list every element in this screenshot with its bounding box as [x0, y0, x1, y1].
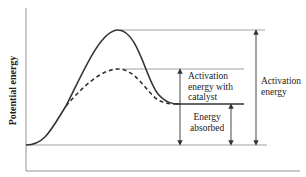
label-line: energy — [261, 87, 301, 98]
label-line: Activation — [188, 71, 233, 82]
activation-energy-label: Activation energy — [261, 76, 301, 97]
label-line: absorbed — [190, 123, 224, 134]
catalyzed-curve — [66, 69, 180, 106]
y-axis-label: Potential energy — [7, 41, 18, 141]
energy-absorbed-label: Energy absorbed — [190, 112, 224, 133]
label-line: Energy — [190, 112, 224, 123]
label-line: catalyst — [188, 92, 233, 103]
label-line: Activation — [261, 76, 301, 87]
activation-catalyst-label: Activation energy with catalyst — [188, 71, 233, 103]
uncatalyzed-curve — [26, 30, 180, 145]
label-line: energy with — [188, 82, 233, 93]
